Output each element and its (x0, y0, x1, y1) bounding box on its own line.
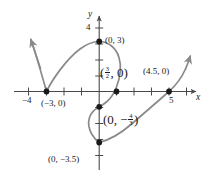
graph-figure: y x 4 −4 5 (0, 3) (−3, 0) (32, 0) (4.5, … (0, 0, 209, 179)
point-3over2-0[interactable] (114, 89, 120, 95)
point-label-neg3-0: (−3, 0) (41, 99, 66, 108)
paren-open-2: (0, − (103, 113, 128, 126)
coordinate-plot (0, 0, 209, 179)
fraction-3-over-2: 32 (105, 66, 110, 81)
point-0-neg3p5[interactable] (96, 140, 102, 146)
point-0-neg4over3[interactable] (96, 104, 102, 110)
curve-arrow-right (186, 56, 191, 69)
x-axis-label: x (196, 93, 200, 103)
paren-close-2: ) (134, 113, 138, 126)
fraction-4-over-3: 43 (128, 113, 133, 128)
point-label-0-neg4over3: (0, −43) (103, 113, 138, 128)
point-label-4p5-0: (4.5, 0) (143, 67, 169, 76)
paren-close: , 0) (111, 66, 128, 79)
paren-open: ( (100, 66, 104, 79)
x-tick-label-5: 5 (169, 96, 174, 105)
point-label-0-neg3p5: (0, −3.5) (48, 155, 79, 164)
point-0-3[interactable] (96, 39, 102, 45)
y-axis-label: y (88, 10, 92, 20)
x-tick-label-neg4: −4 (22, 96, 32, 105)
point-4p5-0[interactable] (166, 89, 172, 95)
point-label-3over2-0: (32, 0) (100, 66, 128, 81)
point-neg3-0[interactable] (44, 89, 50, 95)
y-tick-label-4: 4 (86, 23, 91, 32)
point-label-0-3: (0, 3) (105, 36, 125, 45)
